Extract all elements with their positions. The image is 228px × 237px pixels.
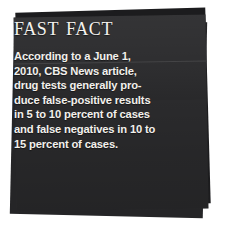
fast-fact-title: Fast Fact — [14, 14, 182, 39]
body-line: 15 percent of cases. — [14, 137, 182, 152]
callout-content: Fast Fact According to a June 1, 2010, C… — [0, 0, 192, 194]
fast-fact-callout: Fast Fact According to a June 1, 2010, C… — [0, 0, 228, 237]
body-line: 2010, CBS News article, — [14, 64, 182, 79]
body-line: and false negatives in 10 to — [14, 122, 182, 137]
body-line: in 5 to 10 percent of cases — [14, 107, 182, 122]
body-line: drug tests generally pro- — [14, 78, 182, 93]
fast-fact-body: According to a June 1, 2010, CBS News ar… — [14, 49, 182, 151]
body-line: According to a June 1, — [14, 49, 182, 64]
body-line: duce false-positive results — [14, 93, 182, 108]
